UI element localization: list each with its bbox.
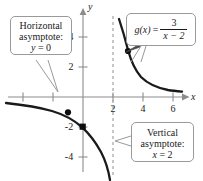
x-axis (8, 94, 190, 101)
horizontal-asymptote-callout: Horizontal asymptote: y = 0 (10, 16, 72, 55)
vertical-asymptote-callout: Vertical asymptote: x = 2 (131, 122, 194, 162)
vertical-callout-line3: x = 2 (132, 149, 193, 160)
function-denominator: x − 2 (160, 29, 187, 41)
y-axis (80, 8, 87, 172)
y-tick-label-2: 2 (66, 62, 76, 72)
vertical-callout-value: = 2 (157, 149, 173, 160)
horizontal-callout-line3: y = 0 (11, 42, 71, 53)
y-tick-label-neg2: -2 (62, 122, 76, 132)
vertical-callout-line1: Vertical (132, 127, 193, 138)
point-left-outer (65, 109, 71, 115)
x-axis-label: x (191, 92, 195, 102)
x-tick-label-2: 2 (108, 104, 118, 114)
horizontal-callout-line1: Horizontal (11, 20, 71, 31)
horizontal-callout-value: = 0 (35, 42, 51, 53)
x-tick-label-6: 6 (168, 104, 178, 114)
x-tick-label-4: 4 (138, 104, 148, 114)
vertical-callout-leader (115, 136, 131, 146)
horizontal-callout-line2: asymptote: (11, 31, 71, 42)
y-axis-label: y (88, 2, 92, 12)
function-lhs: g(x) (135, 24, 151, 35)
function-equals: = (153, 24, 159, 35)
point-left-inner (80, 124, 86, 130)
y-tick-label-neg4: -4 (62, 152, 76, 162)
vertical-callout-line2: asymptote: (132, 138, 193, 149)
function-definition-callout: g(x) = 3 x − 2 (126, 13, 196, 46)
horizontal-callout-leader (36, 60, 58, 92)
function-fraction: 3 x − 2 (160, 18, 187, 41)
rational-function-graph-figure: x y 2 4 6 4 2 -2 -4 Horizontal asymptote… (0, 0, 203, 181)
function-numerator: 3 (168, 18, 179, 29)
curve-left-branch (6, 103, 110, 180)
